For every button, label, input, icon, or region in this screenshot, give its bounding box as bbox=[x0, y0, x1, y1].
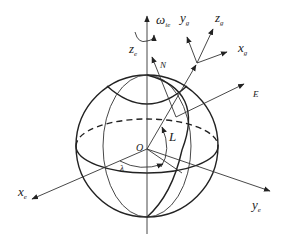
north-label: N bbox=[159, 60, 167, 70]
z-g-label: zg bbox=[214, 10, 224, 27]
longitude-arc bbox=[120, 161, 163, 167]
origin-label: O bbox=[136, 142, 143, 153]
x-e-label: xe bbox=[17, 184, 27, 201]
y-g-label: yg bbox=[178, 10, 190, 27]
z-e-label: ze bbox=[128, 41, 137, 58]
earth-frame-diagram: ωie ze N E yg zg xg O L λ xe ye bbox=[0, 0, 288, 249]
x-g-label: xg bbox=[237, 40, 248, 57]
y-g-axis bbox=[187, 37, 197, 63]
y-e-axis bbox=[147, 149, 270, 191]
rotation-arrow-icon bbox=[135, 32, 154, 42]
omega-label: ωie bbox=[156, 12, 170, 29]
latitude-arc bbox=[161, 127, 167, 167]
latitude-label: L bbox=[168, 129, 176, 144]
east-label: E bbox=[252, 89, 259, 99]
x-e-axis bbox=[32, 149, 147, 199]
y-e-label: ye bbox=[250, 197, 261, 214]
longitude-label: λ bbox=[119, 163, 124, 173]
